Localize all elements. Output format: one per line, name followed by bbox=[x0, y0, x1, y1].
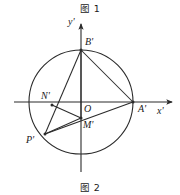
point-label-b: B' bbox=[85, 36, 93, 47]
geometry-canvas bbox=[0, 0, 180, 195]
vertex-dot-p bbox=[44, 133, 47, 136]
x-axis-label: x' bbox=[157, 105, 164, 116]
vertex-dot-n bbox=[51, 104, 54, 107]
geometry-figure: 图 1 y' x' O B' bbox=[0, 0, 180, 195]
vertex-dot-a bbox=[132, 101, 135, 104]
point-label-p: P' bbox=[26, 134, 34, 145]
point-label-m: M' bbox=[83, 119, 93, 130]
origin-label: O bbox=[84, 103, 91, 114]
segment-b-p bbox=[45, 50, 81, 134]
point-label-n: N' bbox=[41, 90, 50, 101]
segment-b-a bbox=[81, 50, 133, 102]
vertex-dot-b bbox=[80, 49, 83, 52]
point-label-a: A' bbox=[138, 103, 146, 114]
segment-n-m bbox=[52, 105, 81, 118]
figure-caption-bottom: 图 2 bbox=[0, 180, 180, 194]
y-axis-label: y' bbox=[68, 16, 75, 27]
